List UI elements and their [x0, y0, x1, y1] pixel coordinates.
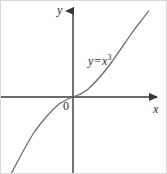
curve-equation-label: y=x3	[88, 54, 111, 67]
origin-label: 0	[63, 100, 69, 112]
y-axis-label: y	[57, 4, 62, 16]
equation-operator: =	[93, 54, 102, 68]
equation-exponent: 3	[107, 53, 111, 62]
cubic-function-figure: y x 0 y=x3	[0, 0, 167, 174]
cubic-curve	[11, 11, 149, 174]
x-axis-label: x	[153, 103, 158, 115]
plot-canvas	[1, 1, 167, 174]
